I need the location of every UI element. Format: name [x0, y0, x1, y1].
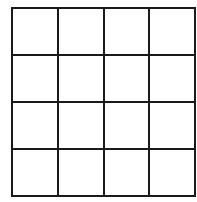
grid-cell [104, 102, 150, 149]
grid-cell [58, 8, 104, 55]
grid-cell [58, 102, 104, 149]
grid-cell [149, 55, 195, 102]
grid-cell [12, 8, 58, 55]
grid-cell [149, 8, 195, 55]
grid-cell [104, 149, 150, 196]
grid-cell [104, 8, 150, 55]
grid-cell [12, 102, 58, 149]
canvas [0, 0, 197, 202]
grid-cell [58, 55, 104, 102]
grid-cell [149, 149, 195, 196]
grid-cell [58, 149, 104, 196]
grid-cell [12, 149, 58, 196]
grid-cell [12, 55, 58, 102]
grid-4x4 [11, 7, 196, 197]
grid-cell [104, 55, 150, 102]
grid-cell [149, 102, 195, 149]
